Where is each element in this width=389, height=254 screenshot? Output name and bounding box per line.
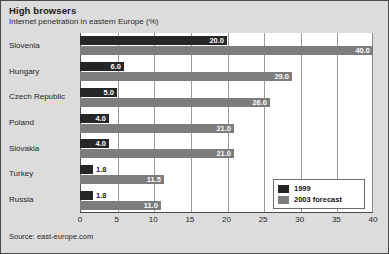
x-tick-label: 35 (326, 215, 346, 224)
gridline (191, 33, 192, 213)
legend-swatch-icon-2003-forecast (278, 196, 289, 204)
x-tick-label: 10 (143, 215, 163, 224)
category-label: Hungary (9, 67, 39, 76)
gridline (154, 33, 155, 213)
gridline (118, 33, 119, 213)
category-label: Slovenia (9, 41, 40, 50)
bar-value-label: 26.0 (80, 98, 270, 107)
x-tick-label: 20 (217, 215, 237, 224)
category-label: Russia (9, 195, 33, 204)
bar-value-label: 1.8 (96, 191, 106, 200)
bar-value-label: 20.0 (80, 36, 227, 45)
gridline (264, 33, 265, 213)
x-tick-label: 30 (290, 215, 310, 224)
bar-1999 (80, 165, 93, 174)
bar-value-label: 1.8 (96, 165, 106, 174)
x-tick-label: 0 (70, 215, 90, 224)
page-title: High browsers (9, 5, 76, 16)
legend-item-2003-forecast: 2003 forecast (278, 194, 360, 205)
x-tick-label: 25 (253, 215, 273, 224)
legend-swatch-icon-1999 (278, 185, 289, 193)
bar-value-label: 5.0 (80, 88, 117, 97)
bar-value-label: 4.0 (80, 114, 109, 123)
category-label: Slovakia (9, 144, 39, 153)
x-axis-line (80, 212, 373, 213)
chart-figure: High browsers Internet penetration in ea… (0, 0, 389, 254)
bar-value-label: 6.0 (80, 62, 124, 71)
category-label: Czech Republic (9, 92, 65, 101)
category-label: Poland (9, 118, 34, 127)
bar-value-label: 21.0 (80, 149, 234, 158)
bar-value-label: 29.0 (80, 72, 292, 81)
bar-value-label: 4.0 (80, 139, 109, 148)
legend-label-2003-forecast: 2003 forecast (294, 195, 342, 204)
chart-subtitle: Internet penetration in eastern Europe (… (9, 17, 158, 26)
source-note: Source: east-europe.com (9, 232, 93, 241)
bar-value-label: 11.0 (80, 201, 161, 210)
gridline (228, 33, 229, 213)
bar-value-label: 21.0 (80, 124, 234, 133)
category-label: Turkey (9, 169, 33, 178)
bar-1999 (80, 191, 93, 200)
x-tick-label: 15 (180, 215, 200, 224)
bar-value-label: 11.5 (80, 175, 164, 184)
x-tick-label: 40 (363, 215, 383, 224)
legend-label-1999: 1999 (294, 184, 311, 193)
chart-legend: 1999 2003 forecast (273, 179, 365, 209)
legend-item-1999: 1999 (278, 183, 360, 194)
x-tick-label: 5 (107, 215, 127, 224)
bar-value-label: 40.0 (80, 46, 373, 55)
